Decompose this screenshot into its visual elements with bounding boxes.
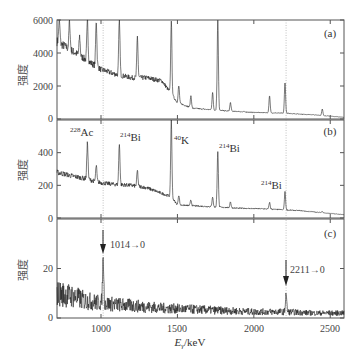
guide-lines: [103, 20, 286, 318]
label-2211-transition: 2211→0: [290, 264, 325, 275]
label-1014-transition: 1014→0: [110, 239, 145, 250]
xtick-2500: 2500: [320, 323, 340, 334]
a-ytick-6000: 6000: [33, 15, 53, 26]
arrow-down-icon: [100, 244, 106, 254]
xtick-1000: 1000: [91, 323, 111, 334]
xtick-2000: 2000: [244, 323, 264, 334]
label-ac228: 228Ac: [70, 126, 93, 138]
arrow-down-icon: [283, 276, 289, 286]
b-ylabel: 强度: [16, 159, 30, 181]
panel-a-label: (a): [324, 27, 337, 40]
panel-b-label: (b): [324, 125, 337, 138]
c-ytick-0: 0: [48, 312, 53, 323]
label-bi214-2204: 214Bi: [261, 179, 282, 191]
label-bi214-1120: 214Bi: [120, 131, 141, 143]
a-ylabel: 强度: [16, 64, 30, 86]
a-ytick-4000: 4000: [33, 48, 53, 59]
b-ytick-0: 0: [48, 213, 53, 224]
panel-c-label: (c): [324, 227, 337, 240]
b-ytick-200: 200: [38, 180, 53, 191]
label-bi214-1764: 214Bi: [219, 142, 240, 154]
label-k40: 40K: [174, 134, 189, 146]
x-axis-label: Eγ/keV: [174, 336, 206, 350]
c-ylabel: 强度: [16, 259, 30, 281]
gamma-spectrum-figure: 6000 4000 2000 0 400 200 0 20 0 强度 强度 强度…: [0, 0, 357, 360]
b-ytick-400: 400: [38, 147, 53, 158]
arrow-2211: [283, 260, 289, 286]
arrow-1014: [100, 230, 106, 254]
c-ytick-20: 20: [43, 263, 53, 274]
xtick-1500: 1500: [167, 323, 187, 334]
a-ytick-2000: 2000: [33, 81, 53, 92]
a-ytick-0: 0: [48, 113, 53, 124]
